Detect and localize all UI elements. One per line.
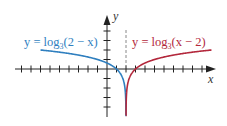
y-axis-label: y	[112, 9, 119, 23]
curve-log3-2-minus-x	[41, 50, 127, 116]
curve-log3-x-minus-2	[126, 50, 212, 116]
x-axis-label: x	[207, 72, 214, 86]
log-graph: y = log3(2 − x) y = log3(x − 2) x y	[0, 0, 227, 126]
left-equation-label: y = log3(2 − x)	[24, 35, 98, 51]
right-equation-label: y = log3(x − 2)	[132, 35, 206, 51]
y-axis-arrow-icon	[104, 15, 111, 25]
axes	[15, 15, 216, 117]
